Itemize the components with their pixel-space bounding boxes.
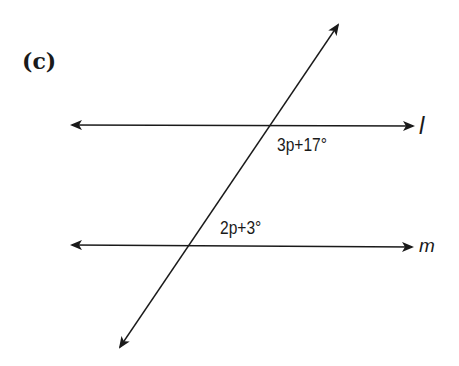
line-l [72, 125, 413, 126]
parallel-lines-diagram [0, 0, 459, 366]
angle-label-m: 2p+3° [220, 217, 261, 239]
angle-label-l: 3p+17° [277, 134, 327, 156]
line-m [72, 245, 412, 247]
line-label-m: m [419, 235, 435, 257]
transversal-line [120, 25, 338, 347]
line-label-l: l [419, 112, 424, 140]
part-label: (c) [22, 48, 56, 74]
